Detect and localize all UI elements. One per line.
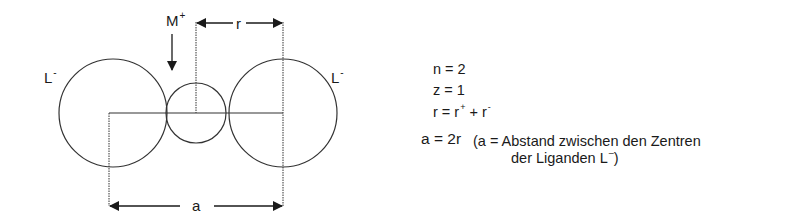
cation-charge: +: [180, 10, 186, 21]
equation-r-mid: + r: [465, 104, 486, 120]
equation-a-note-close: ): [614, 150, 619, 166]
ligand-right-label: L-: [331, 70, 344, 85]
equation-r-prefix: r = r: [433, 104, 459, 120]
equation-a-note-text: der Liganden L: [511, 150, 608, 166]
equation-z: z = 1: [433, 83, 465, 98]
radius-label: r: [236, 16, 241, 31]
equation-r-minus-sup: -: [488, 102, 491, 112]
equation-a-note-line1: (a = Abstand zwischen den Zentren: [473, 134, 701, 149]
equation-a: a = 2r: [421, 131, 461, 147]
ligand-right-charge: -: [340, 67, 343, 78]
equation-r-plus-sup: +: [460, 102, 465, 112]
ionic-coordination-diagram: [0, 0, 793, 216]
equation-r: r = r+ + r-: [433, 105, 491, 120]
equation-n: n = 2: [433, 62, 466, 77]
distance-label: a: [192, 198, 200, 213]
ligand-left-charge: -: [53, 67, 56, 78]
cation-label: M+: [166, 13, 185, 28]
ligand-left-label: L-: [44, 70, 57, 85]
cation-symbol: M: [166, 12, 179, 29]
equation-a-note-line2: der Liganden L–): [511, 151, 619, 166]
ligand-right-symbol: L: [331, 69, 339, 86]
ligand-left-symbol: L: [44, 69, 52, 86]
equation-a-note-charge: –: [609, 148, 614, 158]
